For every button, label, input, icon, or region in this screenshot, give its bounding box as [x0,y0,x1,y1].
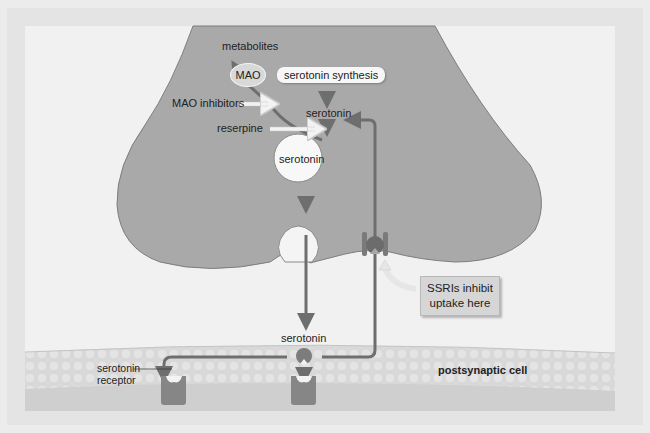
serotonin-cytoplasm-label: serotonin [306,107,351,120]
serotonin-synthesis-label: serotonin synthesis [277,67,385,83]
serotonin-molecule [296,348,312,364]
ssri-line-2: uptake here [427,296,493,311]
mao-inhibitors-label: MAO inhibitors [172,97,244,110]
serotonin-vesicle-label: serotonin [279,153,324,166]
receptor-label: serotonin receptor [97,362,140,386]
receptor-label-line-2: receptor [97,374,140,386]
serotonin-receptor-right [291,376,316,405]
receptor-label-line-1: serotonin [97,362,140,374]
reserpine-label: reserpine [217,122,263,135]
postsynaptic-cell-label: postsynaptic cell [438,364,527,377]
metabolites-label: metabolites [222,40,278,53]
serotonin-receptor-left [160,376,186,405]
serotonin-cleft-label: serotonin [281,332,326,345]
ssri-line-1: SSRIs inhibit [427,281,493,296]
mao-badge: MAO [230,63,266,87]
ssri-callout: SSRIs inhibit uptake here [420,276,500,316]
